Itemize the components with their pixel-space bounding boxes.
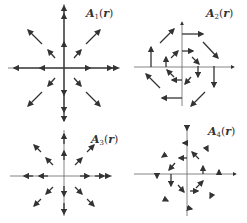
vector-arrow	[34, 199, 41, 206]
vector-arrow	[86, 30, 100, 44]
vector-arrow	[167, 70, 174, 77]
panel-label-a4: A4(r)	[208, 125, 235, 139]
vector-arrow	[86, 92, 100, 106]
vector-arrow	[188, 208, 192, 209]
vector-arrow	[160, 29, 174, 43]
vector-arrow	[196, 181, 203, 188]
vector-arrow	[74, 78, 81, 86]
panel-label-a1: A1(r)	[86, 7, 113, 21]
vector-field-a3	[24, 112, 110, 214]
vector-arrow	[185, 77, 191, 84]
vector-arrow	[169, 163, 175, 170]
vector-arrow	[48, 50, 55, 58]
vector-arrow	[178, 185, 184, 192]
axes-a4	[134, 126, 236, 216]
vector-field-a1	[14, 6, 118, 112]
vector-arrow	[74, 50, 81, 58]
vector-arrow	[75, 158, 82, 165]
vector-arrow	[48, 78, 55, 86]
vector-arrow	[162, 155, 165, 157]
vector-arrow	[146, 74, 160, 88]
vector-arrow	[192, 57, 199, 64]
vector-arrow	[207, 149, 208, 151]
vector-arrow	[34, 145, 41, 152]
vector-arrow	[87, 199, 94, 206]
vector-arrow	[166, 200, 168, 201]
vector-arrow	[46, 158, 53, 165]
vector-arrow	[28, 92, 42, 106]
vector-field-canvas	[0, 0, 247, 223]
vector-arrow	[171, 51, 178, 58]
vector-arrow	[203, 42, 218, 58]
panel-label-a2: A2(r)	[206, 7, 233, 21]
vector-arrow	[75, 187, 82, 194]
vector-arrow	[192, 152, 199, 159]
vector-arrow	[28, 30, 42, 44]
vector-arrow	[191, 92, 205, 106]
panel-label-a3: A3(r)	[91, 133, 118, 147]
vector-arrow	[46, 187, 53, 194]
vector-arrow	[210, 196, 211, 198]
